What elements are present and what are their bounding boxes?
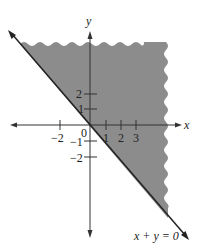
inequality-graph: x y −2 1 2 3 0 2 1 −1 −2 x + y = 0	[0, 0, 198, 249]
y-tick-label-neg1: −1	[70, 135, 83, 149]
y-tick-label-neg2: −2	[70, 151, 83, 165]
y-axis-up-arrow-icon	[88, 31, 93, 39]
x-axis-label: x	[183, 118, 190, 132]
y-tick-label-2: 2	[76, 87, 82, 101]
x-tick-label-neg2: −2	[51, 131, 64, 145]
y-axis-label: y	[85, 14, 92, 28]
x-axis-left-arrow-icon	[10, 123, 17, 128]
line-equation-label: x + y = 0	[133, 229, 179, 243]
x-tick-label-3: 3	[133, 131, 139, 145]
x-axis-right-arrow-icon	[175, 123, 182, 128]
x-tick-label-2: 2	[118, 131, 124, 145]
y-axis-down-arrow-icon	[88, 230, 93, 238]
